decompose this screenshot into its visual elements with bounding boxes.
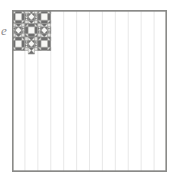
quilt-patch-corner-square	[35, 20, 38, 23]
quilt-patch-cross-bar	[41, 20, 47, 23]
quilt-patch-corner-square	[48, 24, 51, 27]
quilt-patch-cross-bar	[41, 47, 47, 50]
quilt-patch-cross-bar	[22, 13, 25, 20]
quilt-patch-corner-square	[38, 34, 41, 37]
quilt-patch-cross-bar	[15, 37, 21, 40]
quilt-patch-center-square	[15, 13, 21, 20]
quilt-patch-cross-bar	[38, 40, 41, 47]
quilt-patch-cross-bar	[48, 40, 51, 47]
quilt-patch-cross-bar	[28, 24, 34, 27]
quilt-patch-corner-square	[22, 24, 25, 27]
quilt-patch-center-square	[28, 27, 34, 34]
quilt-canvas	[12, 10, 154, 172]
quilt-patch-cross-bar	[15, 47, 21, 50]
quilt-patch-corner-square	[35, 47, 38, 50]
quilt-patch-corner-square	[25, 20, 28, 23]
figure-root: e	[0, 0, 178, 185]
quilt-patch-center-square	[15, 40, 21, 47]
quilt-patch-cross-bar	[15, 20, 21, 23]
quilt-patch-corner-square	[22, 34, 25, 37]
quilt-svg-canvas	[12, 10, 167, 172]
quilt-patch-corner-square	[25, 47, 28, 50]
quilt-patch-cross-bar	[48, 13, 51, 20]
quilt-patch-center-square	[41, 13, 47, 20]
quilt-patch-center-square	[41, 40, 47, 47]
quilt-diagram	[12, 10, 167, 172]
quilt-patch-corner-square	[48, 34, 51, 37]
quilt-patch-cross-bar	[25, 27, 28, 34]
quilt-patch-cross-bar	[28, 34, 34, 37]
quilt-patch-cross-bar	[35, 27, 38, 34]
quilt-patch-cross-bar	[41, 37, 47, 40]
quilt-patch-corner-square	[38, 24, 41, 27]
quilt-patch-corner-square	[35, 37, 38, 40]
quilt-patch-cross-bar	[38, 13, 41, 20]
quilt-patch-cross-bar	[22, 40, 25, 47]
quilt-patch-corner-square	[25, 37, 28, 40]
